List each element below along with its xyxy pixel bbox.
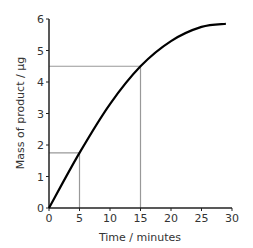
y-tick-label: 0 [37,202,44,215]
y-tick-label: 1 [37,171,44,184]
y-tick-label: 5 [37,45,44,58]
tick-labels: 0510152025300123456 [37,13,239,225]
y-tick-label: 3 [37,108,44,121]
chart: 0510152025300123456 Time / minutes Mass … [0,0,253,248]
x-tick-label: 30 [225,212,239,225]
y-axis-label: Mass of product / µg [14,57,27,169]
x-tick-label: 10 [103,212,117,225]
axes [46,19,232,211]
x-tick-label: 5 [76,212,83,225]
y-tick-label: 6 [37,13,44,26]
x-axis-label: Time / minutes [98,231,181,244]
y-tick-label: 4 [37,76,44,89]
x-tick-label: 20 [164,212,178,225]
mass-curve [49,24,226,208]
x-tick-label: 0 [46,212,53,225]
reference-lines [49,66,141,208]
y-tick-label: 2 [37,139,44,152]
x-tick-label: 25 [195,212,209,225]
x-tick-label: 15 [134,212,148,225]
